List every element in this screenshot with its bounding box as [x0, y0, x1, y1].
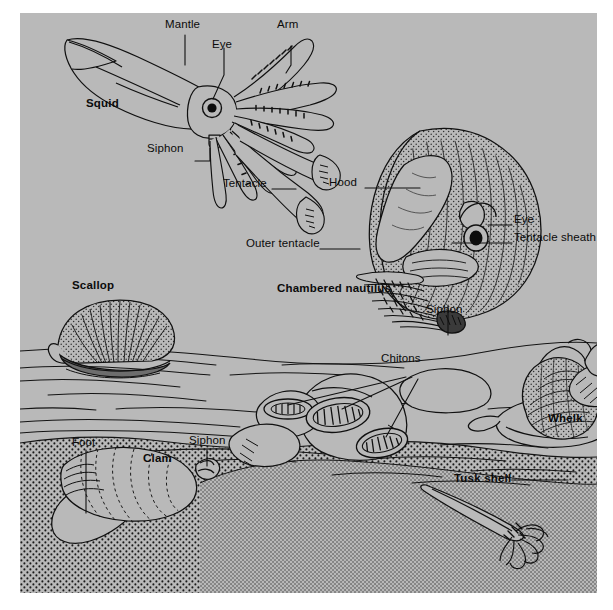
rock-back-right	[400, 369, 491, 413]
label-chambered-nautilus: Chambered nautilus	[277, 283, 391, 295]
label-tusk-shell: Tusk shell	[454, 473, 511, 485]
label-clam-foot: Foot	[72, 437, 95, 449]
label-nautilus-hood: Hood	[329, 177, 357, 189]
label-squid: Squid	[86, 98, 119, 110]
label-nautilus-tentacle-sheath: Tentacle sheath	[514, 232, 596, 244]
label-nautilus-outer-tentacle: Outer tentacle	[246, 238, 320, 250]
label-squid-arm: Arm	[277, 19, 298, 31]
label-squid-mantle: Mantle	[165, 19, 200, 31]
label-clam-siphon: Siphon	[189, 435, 225, 447]
squid-tentacle-club-1	[297, 197, 325, 234]
label-nautilus-eye: Eye	[514, 214, 534, 226]
label-nautilus-siphon: Siphon	[426, 304, 462, 316]
leader-siphon-squid	[195, 148, 210, 161]
label-scallop: Scallop	[72, 280, 114, 292]
clam-siphon	[196, 459, 220, 480]
label-squid-siphon: Siphon	[147, 143, 183, 155]
illustration-plate: Mantle Eye Arm Squid Siphon Tentacle Hoo…	[0, 0, 613, 610]
squid-eye-pupil	[207, 103, 216, 112]
squid-figure	[65, 39, 341, 234]
rock-lower-left	[229, 424, 300, 466]
label-squid-eye: Eye	[212, 39, 232, 51]
chiton-left	[264, 399, 312, 419]
whelk-siphonal-canal	[468, 416, 500, 431]
label-chitons: Chitons	[381, 353, 421, 365]
label-squid-tentacle: Tentacle	[223, 178, 267, 190]
plate-background: Mantle Eye Arm Squid Siphon Tentacle Hoo…	[20, 13, 597, 593]
label-clam: Clam	[143, 453, 172, 465]
label-whelk: Whelk	[548, 413, 583, 425]
